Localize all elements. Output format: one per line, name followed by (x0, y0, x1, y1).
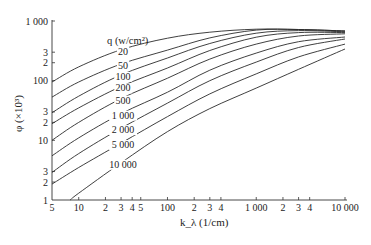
y-axis-title: φ (×10³) (12, 95, 25, 132)
legend-title: q (w/cm²) (107, 35, 149, 47)
x-tick-label: 10 (74, 202, 84, 213)
curve-label-q-50: 50 (118, 60, 128, 71)
y-tick-label: 10 (38, 135, 48, 146)
x-tick-label: 4 (218, 202, 223, 213)
curve-label-q-100: 100 (116, 71, 131, 82)
x-tick-label: 3 (119, 202, 124, 213)
curve-label-q-2000: 2 000 (112, 124, 135, 135)
y-tick-label: 3 (43, 47, 48, 58)
y-tick-label: 1 000 (26, 16, 49, 27)
curve-q-100 (52, 31, 345, 113)
x-tick-label: 2 (280, 202, 285, 213)
x-tick-label: 10 000 (331, 202, 359, 213)
y-tick-label: 3 (43, 106, 48, 117)
x-tick-label: 5 (50, 202, 55, 213)
y-tick-label: 2 (43, 177, 48, 188)
x-tick-label: 4 (307, 202, 312, 213)
x-tick-label: 1 000 (245, 202, 268, 213)
x-tick-label: 3 (296, 202, 301, 213)
curve-label-q-10000: 10 000 (109, 159, 137, 170)
y-axis-ticks: 1231023100231 000 (26, 16, 56, 206)
x-tick-label: 2 (192, 202, 197, 213)
x-tick-label: 100 (160, 202, 175, 213)
curve-label-q-5000: 5 000 (112, 139, 135, 150)
curve-label-q-20: 20 (118, 46, 128, 57)
y-tick-label: 1 (43, 195, 48, 206)
x-axis-ticks: 51023451002341 00023410 000 (50, 197, 359, 213)
chart-figure: 51023451002341 00023410 000 123102310023… (0, 0, 371, 245)
curve-q-200 (52, 32, 345, 123)
data-curves (52, 29, 345, 200)
curve-label-q-500: 500 (116, 95, 131, 106)
curve-labels: 20501002005001 0002 0005 00010 000 (106, 46, 139, 170)
x-tick-label: 2 (103, 202, 108, 213)
x-tick-label: 4 (130, 202, 135, 213)
x-tick-label: 5 (138, 202, 143, 213)
y-tick-label: 100 (33, 75, 48, 86)
y-tick-label: 3 (43, 166, 48, 177)
curve-label-q-1000: 1 000 (112, 110, 135, 121)
x-tick-label: 3 (207, 202, 212, 213)
y-tick-label: 2 (43, 117, 48, 128)
curve-label-q-200: 200 (116, 82, 131, 93)
x-axis-title: k_λ (1/cm) (180, 216, 229, 229)
y-tick-label: 2 (43, 57, 48, 68)
